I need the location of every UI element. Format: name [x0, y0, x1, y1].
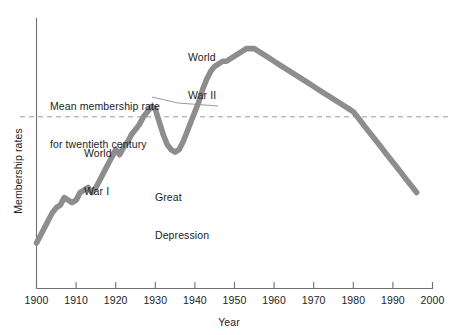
annotation-depression-line2: Depression: [155, 229, 209, 242]
x-tick-label-2000: 2000: [421, 294, 445, 306]
x-tick-label-1930: 1930: [143, 294, 167, 306]
annotation-depression-line1: Great: [155, 191, 209, 204]
annotation-great-depression: Great Depression: [155, 166, 209, 266]
x-tick-label-1920: 1920: [104, 294, 128, 306]
x-tick-label-1980: 1980: [341, 294, 365, 306]
chart-figure: World War II Mean membership rate for tw…: [0, 0, 458, 335]
x-tick-label-1910: 1910: [64, 294, 88, 306]
annotation-world-war-ii: World War II: [188, 26, 216, 126]
annotation-mean-line1: Mean membership rate: [50, 100, 160, 113]
annotation-ww1-line1: World: [84, 147, 112, 160]
x-tick-label-1940: 1940: [183, 294, 207, 306]
x-tick-label-1970: 1970: [302, 294, 326, 306]
annotation-ww2-line1: World: [188, 51, 216, 64]
x-axis-ticks: [37, 282, 433, 289]
x-tick-label-1990: 1990: [381, 294, 405, 306]
x-tick-label-1900: 1900: [25, 294, 49, 306]
annotation-world-war-i: World War I: [84, 122, 112, 222]
x-axis-title: Year: [218, 316, 240, 328]
x-tick-label-1950: 1950: [223, 294, 247, 306]
y-axis-title: Membership rates: [12, 106, 24, 236]
x-tick-label-1960: 1960: [262, 294, 286, 306]
annotation-ww1-line2: War I: [84, 185, 112, 198]
annotation-ww2-line2: War II: [188, 89, 216, 102]
